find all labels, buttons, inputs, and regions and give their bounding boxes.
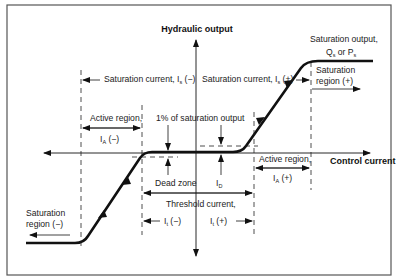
label-threshold-current: Threshold current, (166, 199, 236, 209)
label-active-region-positive: Active region, (259, 154, 311, 164)
label-dead-zone-id: ID (216, 178, 222, 189)
label-threshold-negative: It (−) (164, 216, 181, 227)
label-saturation-region-negative-1: Saturation (26, 208, 65, 218)
characteristic-curve (26, 61, 373, 243)
label-saturation-output-symbols: Qs or Ps (326, 47, 357, 58)
label-one-percent-saturation: 1% of saturation output (156, 113, 245, 123)
curve-direction-arrows (98, 80, 293, 218)
label-saturation-region-positive-1: Saturation (316, 65, 355, 75)
label-saturation-current-positive: Saturation current, Is (+) (202, 74, 294, 85)
label-active-region-positive-symbol: IA (+) (273, 173, 292, 184)
label-threshold-positive: It (+) (210, 216, 227, 227)
servo-valve-characteristic-diagram: Hydraulic output Control current Saturat… (0, 0, 396, 280)
label-active-region-negative-symbol: IA (−) (100, 134, 119, 145)
diagram-frame (7, 5, 391, 275)
label-saturation-region-negative-2: region (−) (26, 219, 63, 229)
label-saturation-output: Saturation output, (310, 34, 378, 44)
label-saturation-region-positive-2: region (+) (316, 76, 353, 86)
label-active-region-negative: Active region, (90, 113, 142, 123)
y-axis-title: Hydraulic output (161, 24, 233, 34)
label-saturation-current-negative: Saturation current, Is (−) (104, 74, 196, 85)
label-dead-zone: Dead zone (155, 178, 197, 188)
x-axis-title: Control current (330, 156, 396, 166)
